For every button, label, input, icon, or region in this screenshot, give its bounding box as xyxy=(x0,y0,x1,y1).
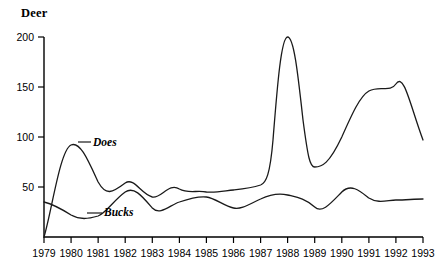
x-tick-marks xyxy=(44,237,423,243)
x-tick-label-1981: 1981 xyxy=(83,247,113,259)
x-tick-label-1987: 1987 xyxy=(246,247,276,259)
y-tick-label-50: 50 xyxy=(8,181,34,193)
x-tick-label-1989: 1989 xyxy=(300,247,330,259)
x-tick-label-1983: 1983 xyxy=(137,247,167,259)
x-tick-label-1993: 1993 xyxy=(408,247,438,259)
y-tick-marks xyxy=(38,37,44,187)
x-tick-label-1985: 1985 xyxy=(191,247,221,259)
x-tick-label-1980: 1980 xyxy=(56,247,86,259)
y-tick-label-150: 150 xyxy=(8,81,34,93)
x-tick-label-1988: 1988 xyxy=(273,247,303,259)
x-tick-label-1991: 1991 xyxy=(354,247,384,259)
series-line-bucks xyxy=(44,188,423,219)
series-label-bucks: Bucks xyxy=(104,206,133,218)
y-tick-label-200: 200 xyxy=(8,31,34,43)
y-tick-label-100: 100 xyxy=(8,131,34,143)
x-tick-label-1984: 1984 xyxy=(164,247,194,259)
x-tick-label-1990: 1990 xyxy=(327,247,357,259)
series-label-does: Does xyxy=(93,136,117,148)
x-tick-label-1979: 1979 xyxy=(29,247,59,259)
x-tick-label-1986: 1986 xyxy=(219,247,249,259)
x-tick-label-1992: 1992 xyxy=(381,247,411,259)
deer-population-chart: Deer xyxy=(0,0,443,268)
chart-plot-area xyxy=(0,0,443,268)
x-tick-label-1982: 1982 xyxy=(110,247,140,259)
